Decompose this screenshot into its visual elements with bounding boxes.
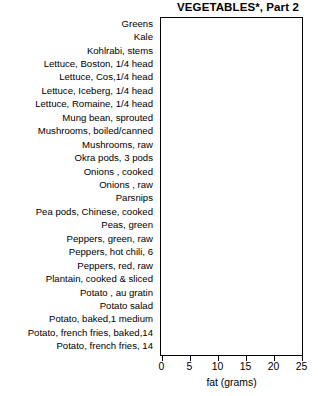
category-axis-labels: GreensKaleKohlrabi, stemsLettuce, Boston… — [0, 17, 156, 356]
category-label: Okra pods, 3 pods — [0, 152, 156, 163]
category-label: Potato , au gratin — [0, 287, 156, 298]
category-label: Kale — [0, 31, 156, 42]
category-label: Onions , raw — [0, 179, 156, 190]
category-label: Potato, baked,1 medium — [0, 313, 156, 324]
category-label: Peas, green — [0, 219, 156, 230]
x-tick-label: 20 — [268, 361, 280, 373]
category-label: Lettuce, Cos,1/4 head — [0, 71, 156, 82]
x-axis: 0510152025 — [160, 356, 303, 396]
x-tick-label: 15 — [240, 361, 252, 373]
x-tick-label: 10 — [212, 361, 224, 373]
category-label: Peppers, red, raw — [0, 260, 156, 271]
bar-chart: VEGETABLES*, Part 2 GreensKaleKohlrabi, … — [0, 0, 318, 396]
x-tick-label: 25 — [296, 361, 308, 373]
plot-area: 1100000010000001000015210611 — [160, 17, 303, 356]
category-label: Potato, french fries, 14 — [0, 340, 156, 351]
x-tick-label: 0 — [159, 361, 165, 373]
category-label: Onions , cooked — [0, 166, 156, 177]
category-label: Mushrooms, raw — [0, 139, 156, 150]
category-label: Plantain, cooked & sliced — [0, 273, 156, 284]
category-label: Peppers, green, raw — [0, 233, 156, 244]
category-label: Potato, french fries, baked,14 — [0, 327, 156, 338]
x-tick-label: 5 — [187, 361, 193, 373]
category-label: Lettuce, Iceberg, 1/4 head — [0, 85, 156, 96]
x-axis-title: fat (grams) — [160, 377, 303, 388]
category-label: Potato salad — [0, 300, 156, 311]
category-label: Peppers, hot chili, 6 — [0, 246, 156, 257]
category-label: Greens — [0, 18, 156, 29]
category-label: Kohlrabi, stems — [0, 45, 156, 56]
chart-title: VEGETABLES*, Part 2 — [160, 1, 316, 13]
category-label: Mung bean, sprouted — [0, 112, 156, 123]
category-label: Parsnips — [0, 192, 156, 203]
category-label: Mushrooms, boiled/canned — [0, 125, 156, 136]
category-label: Pea pods, Chinese, cooked — [0, 206, 156, 217]
category-label: Lettuce, Romaine, 1/4 head — [0, 98, 156, 109]
category-label: Lettuce, Boston, 1/4 head — [0, 58, 156, 69]
